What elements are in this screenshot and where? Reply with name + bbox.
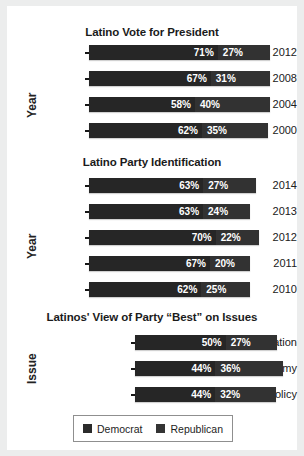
- stacked-bar[interactable]: 67%20%: [89, 256, 250, 271]
- bar-value-label: 27%: [208, 180, 228, 191]
- stacked-bar[interactable]: 71%27%: [89, 45, 270, 60]
- bar-value-label: 36%: [220, 363, 240, 374]
- bar-segment-democrat[interactable]: 71%: [89, 45, 218, 60]
- bar-segment-democrat[interactable]: 67%: [89, 71, 211, 86]
- bar-row: 201463%27%: [7, 178, 297, 193]
- bar-segment-republican[interactable]: 24%: [203, 204, 250, 219]
- legend-item-republican: Republican: [156, 423, 223, 435]
- bar-value-label: 63%: [179, 206, 199, 217]
- stacked-bar[interactable]: 62%25%: [89, 282, 250, 297]
- legend-label: Democrat: [97, 423, 143, 435]
- bar-segment-democrat[interactable]: 63%: [89, 178, 203, 193]
- bar-segment-republican[interactable]: 20%: [210, 256, 250, 271]
- bar-value-label: 27%: [223, 47, 243, 58]
- bar-segment-republican[interactable]: 36%: [215, 361, 283, 376]
- bar-segment-democrat[interactable]: 44%: [135, 361, 215, 376]
- bar-row: 200062%35%: [7, 123, 297, 138]
- bar-segment-republican[interactable]: 35%: [202, 123, 269, 138]
- bar-segment-democrat[interactable]: 67%: [89, 256, 210, 271]
- bar-row: 200458%40%: [7, 97, 297, 112]
- bar-row: Foreign Policy44%32%: [7, 387, 297, 402]
- bar-segment-democrat[interactable]: 70%: [89, 230, 216, 245]
- bar-segment-republican[interactable]: 31%: [211, 71, 271, 86]
- bar-value-label: 25%: [206, 284, 226, 295]
- bar-value-label: 22%: [221, 232, 241, 243]
- bar-row: 200867%31%: [7, 71, 297, 86]
- stacked-bar[interactable]: 67%31%: [89, 71, 270, 86]
- bar-row: Immigration50%27%: [7, 335, 297, 350]
- legend-swatch-republican-icon: [156, 424, 165, 433]
- stacked-bar[interactable]: 50%27%: [135, 335, 277, 350]
- bar-segment-republican[interactable]: 27%: [203, 178, 255, 193]
- bar-segment-democrat[interactable]: 50%: [135, 335, 226, 350]
- legend-label: Republican: [170, 423, 223, 435]
- bar-value-label: 20%: [215, 258, 235, 269]
- figure-page: Latino Vote for President Year 201271%27…: [7, 6, 297, 450]
- bar-segment-democrat[interactable]: 62%: [89, 282, 201, 297]
- bar-value-label: 63%: [179, 180, 199, 191]
- bar-value-label: 67%: [187, 73, 207, 84]
- stacked-bar[interactable]: 44%32%: [135, 387, 276, 402]
- bar-row: 201270%22%: [7, 230, 297, 245]
- bar-value-label: 44%: [191, 389, 211, 400]
- bar-segment-republican[interactable]: 27%: [218, 45, 270, 60]
- bar-value-label: 71%: [194, 47, 214, 58]
- stacked-bar[interactable]: 63%27%: [89, 178, 256, 193]
- bar-segment-republican[interactable]: 22%: [216, 230, 260, 245]
- bar-value-label: 27%: [231, 337, 251, 348]
- bar-segment-democrat[interactable]: 58%: [89, 97, 195, 112]
- bar-segment-democrat[interactable]: 44%: [135, 387, 215, 402]
- bar-row: Economy44%36%: [7, 361, 297, 376]
- legend: Democrat Republican: [73, 415, 233, 442]
- chart-title: Latino Party Identification: [7, 156, 297, 168]
- stacked-bar[interactable]: 44%36%: [135, 361, 283, 376]
- stacked-bar[interactable]: 62%35%: [89, 123, 268, 138]
- bar-value-label: 62%: [178, 125, 198, 136]
- bar-value-label: 24%: [208, 206, 228, 217]
- stacked-bar[interactable]: 63%24%: [89, 204, 250, 219]
- stacked-bar[interactable]: 70%22%: [89, 230, 259, 245]
- bar-segment-republican[interactable]: 40%: [195, 97, 270, 112]
- bar-segment-democrat[interactable]: 63%: [89, 204, 203, 219]
- bar-segment-republican[interactable]: 32%: [215, 387, 275, 402]
- chart-title: Latino Vote for President: [7, 26, 297, 38]
- bar-segment-republican[interactable]: 25%: [201, 282, 250, 297]
- bar-value-label: 32%: [220, 389, 240, 400]
- stacked-bar[interactable]: 58%40%: [89, 97, 270, 112]
- bar-segment-republican[interactable]: 27%: [226, 335, 278, 350]
- bar-row: 201167%20%: [7, 256, 297, 271]
- legend-swatch-democrat-icon: [83, 424, 92, 433]
- bar-value-label: 31%: [216, 73, 236, 84]
- bar-value-label: 62%: [177, 284, 197, 295]
- legend-item-democrat: Democrat: [83, 423, 143, 435]
- bar-row: 201271%27%: [7, 45, 297, 60]
- bar-value-label: 40%: [200, 99, 220, 110]
- bar-value-label: 44%: [191, 363, 211, 374]
- bar-row: 201363%24%: [7, 204, 297, 219]
- bar-value-label: 50%: [202, 337, 222, 348]
- chart-title: Latinos' View of Party “Best” on Issues: [7, 311, 297, 323]
- bar-value-label: 35%: [207, 125, 227, 136]
- bar-row: 201062%25%: [7, 282, 297, 297]
- bar-value-label: 70%: [192, 232, 212, 243]
- bar-segment-democrat[interactable]: 62%: [89, 123, 202, 138]
- bar-value-label: 67%: [186, 258, 206, 269]
- bar-value-label: 58%: [171, 99, 191, 110]
